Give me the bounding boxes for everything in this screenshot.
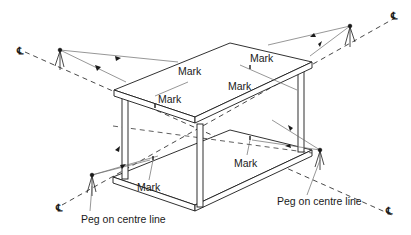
- peg-label-right: Peg on centre line: [277, 196, 362, 207]
- mark-label-top-front-right: Mark: [228, 81, 251, 92]
- mark-label-bottom-right: Mark: [234, 158, 257, 169]
- mark-label-top-right-edge: Mark: [250, 53, 273, 64]
- mark-label-top-left-edge: Mark: [178, 66, 201, 77]
- instrument-top-right: [345, 24, 355, 47]
- centre-line-symbol-bottom-left: ℄: [56, 203, 62, 213]
- top-slab: [114, 43, 312, 123]
- mark-label-top-front-left: Mark: [158, 94, 181, 105]
- centre-line-symbol-bottom-right: ℄: [386, 206, 392, 216]
- peg-label-left: Peg on centre line: [81, 214, 166, 225]
- centre-line-symbol-top-right: ℄: [391, 11, 397, 21]
- instrument-bottom-right: [315, 148, 324, 170]
- mark-label-bottom-left: Mark: [137, 182, 160, 193]
- centre-line-symbol-top-left: ℄: [17, 46, 23, 56]
